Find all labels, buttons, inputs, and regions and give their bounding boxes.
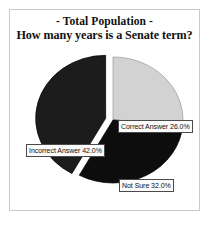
pie-chart: Correct Answer 26.0% Incorrect Answer 42… <box>9 40 200 210</box>
slice-label-correct-answer: Correct Answer 26.0% <box>118 120 193 133</box>
chart-page: - Total Population - How many years is a… <box>0 0 213 225</box>
chart-title-line-1: - Total Population - <box>9 14 200 28</box>
pie-slice-correct-answer <box>113 57 183 124</box>
slice-label-not-sure: Not Sure 32.0% <box>119 179 174 192</box>
slice-label-incorrect-answer: Incorrect Answer 42.0% <box>26 144 105 157</box>
